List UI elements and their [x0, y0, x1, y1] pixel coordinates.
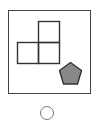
pentagon-icon — [60, 63, 82, 85]
square-top — [39, 22, 60, 43]
option-label — [41, 107, 42, 108]
square-bottom-left — [18, 43, 39, 64]
option-figure — [0, 0, 103, 114]
l-shaped-squares — [18, 22, 60, 64]
option-radio-button[interactable] — [40, 106, 54, 114]
square-bottom-right — [39, 43, 60, 64]
